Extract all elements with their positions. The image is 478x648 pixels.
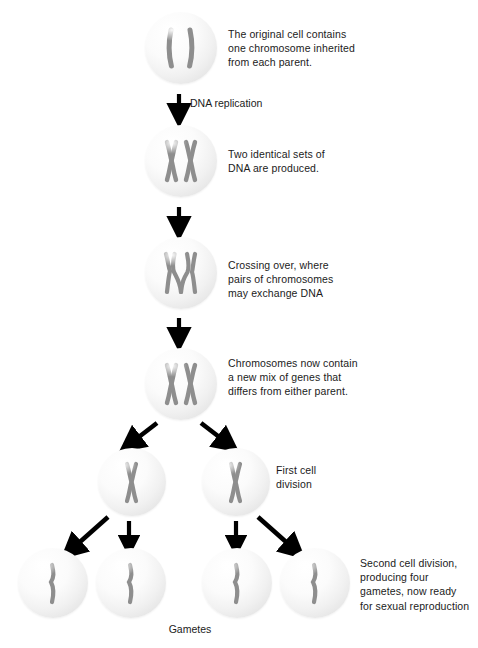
- cell-replicated: [145, 125, 217, 197]
- chromosome-two-x-recombined: [145, 348, 217, 420]
- caption-first-division: First cell division: [276, 463, 366, 491]
- chromosome-two-bars: [145, 12, 217, 84]
- cell-gamete-2: [96, 548, 166, 618]
- caption-recombined-cell: Chromosomes now contain a new mix of gen…: [228, 356, 368, 399]
- arrow-first-division-left: [131, 423, 157, 443]
- caption-original-cell: The original cell contains one chromosom…: [228, 27, 358, 70]
- cell-daughter-right: [202, 448, 270, 516]
- chromosome-single-bar: [202, 548, 272, 618]
- cell-daughter-left: [98, 448, 166, 516]
- label-gametes: Gametes: [160, 622, 220, 636]
- caption-second-division: Second cell division, producing four gam…: [360, 556, 478, 613]
- chromosome-two-x: [145, 125, 217, 197]
- arrow-second-division-1: [72, 517, 108, 549]
- cell-original: [145, 12, 217, 84]
- arrow-second-division-4: [258, 517, 294, 549]
- cell-crossing-over: [145, 237, 217, 309]
- cell-gamete-4: [280, 548, 350, 618]
- meiosis-diagram: The original cell contains one chromosom…: [0, 0, 478, 648]
- caption-crossing-over: Crossing over, where pairs of chromosome…: [228, 258, 360, 301]
- chromosome-single-bar: [96, 548, 166, 618]
- chromosome-single-bar: [280, 548, 350, 618]
- cell-gamete-1: [18, 548, 88, 618]
- chromosome-single-x: [98, 448, 166, 516]
- label-dna-replication: DNA replication: [190, 96, 262, 110]
- arrow-first-division-right: [201, 423, 227, 443]
- cell-recombined: [145, 348, 217, 420]
- chromosome-single-bar: [18, 548, 88, 618]
- chromosome-crossed-x: [145, 237, 217, 309]
- cell-gamete-3: [202, 548, 272, 618]
- chromosome-single-x: [202, 448, 270, 516]
- caption-replicated-cell: Two identical sets of DNA are produced.: [228, 147, 358, 175]
